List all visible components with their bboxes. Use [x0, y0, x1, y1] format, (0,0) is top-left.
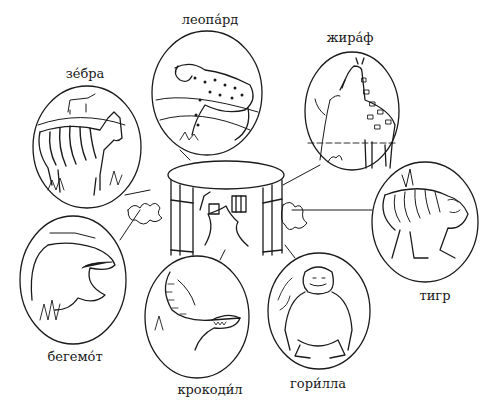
leopard-vignette: [152, 31, 262, 155]
gorilla-vignette: [268, 253, 370, 369]
zebra-label: зе́бра: [60, 67, 110, 81]
zoo-enclosure: [128, 161, 307, 255]
tiger-label: тигр: [415, 289, 455, 303]
giraffe-vignette: [305, 52, 399, 170]
tiger-vignette: [372, 162, 478, 282]
crocodile-vignette: [145, 256, 249, 378]
hippo-vignette: [20, 216, 126, 344]
giraffe-label: жира́ф: [325, 31, 375, 45]
gorilla-label: гори́лла: [288, 377, 348, 391]
hippo-label: бегемо́т: [40, 350, 110, 364]
zebra-vignette: [33, 86, 141, 208]
crocodile-label: крокоди́л: [175, 383, 245, 397]
leopard-label: леопа́рд: [180, 13, 240, 27]
